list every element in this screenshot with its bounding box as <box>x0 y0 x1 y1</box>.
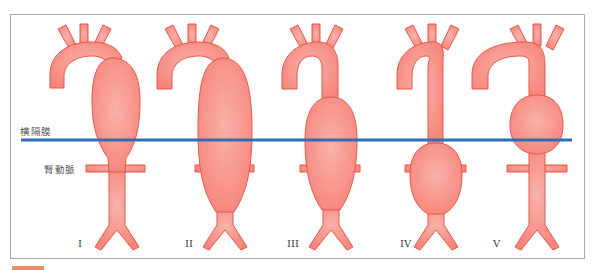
diaphragm-label: 横隔膜 <box>20 124 52 138</box>
aorta-type-3 <box>282 24 360 250</box>
caption-accent-bar <box>12 266 44 270</box>
aorta-type-4 <box>397 24 466 250</box>
aorta-type-2 <box>157 24 254 250</box>
type-label-4: IV <box>400 238 411 249</box>
aorta-type-1 <box>50 24 145 250</box>
type-label-5: V <box>493 238 500 249</box>
type-label-3: III <box>287 238 299 249</box>
renal-artery-label: 腎動脈 <box>44 162 76 176</box>
aortic-aneurysm-classification-diagram <box>0 0 592 270</box>
aorta-type-5 <box>472 24 567 250</box>
type-label-1: I <box>78 238 82 249</box>
type-label-2: II <box>185 238 193 249</box>
